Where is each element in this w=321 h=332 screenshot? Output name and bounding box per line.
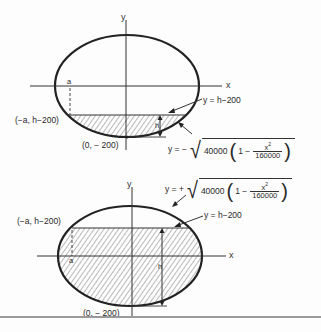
top-h-label: h [155,122,159,130]
right-paren: ) [281,181,288,201]
top-curve-equation: y = − √ 40000 ( 1 − x2 160000 ) [168,138,295,161]
left-paren: ( [230,141,237,161]
ellipse-tank-figure: y x a h (−a, h−200) (0, − 200) y = h−200… [0,0,321,332]
bottom-eq-const: 40000 [201,187,225,196]
sqrt-symbol: √ [187,178,198,201]
bottom-eq-frac-den: 160000 [250,191,279,200]
bottom-diagram [37,187,226,318]
top-x-axis-label: x [226,81,231,90]
top-eq-fraction: x2 160000 [253,142,282,160]
top-y-axis-label: y [121,13,126,22]
bottom-eq-exp: 2 [265,181,268,187]
top-h-arrow-down [158,132,163,137]
diagram-graphics [0,0,321,332]
bottom-line-equation: y = h−200 [204,211,242,220]
bottom-eq-one-minus: 1 − [235,187,247,196]
top-point-bottom-label: (0, − 200) [82,141,119,150]
top-eq-exp: 2 [268,141,271,147]
top-a-label: a [67,78,71,86]
top-eq-prefix: y = − [168,145,187,154]
bottom-h-label: h [158,263,162,271]
top-eq-one-minus: 1 − [238,147,250,156]
bottom-eq-radicand: 40000 ( 1 − x2 160000 ) [199,178,292,201]
right-paren: ) [284,141,291,161]
bottom-hatched-region [50,228,210,310]
bottom-eq-prefix: y = + [165,185,184,194]
top-line-equation: y = h−200 [203,96,241,105]
sqrt-symbol: √ [190,138,201,161]
bottom-eq-fraction: x2 160000 [250,182,279,200]
bottom-a-label: a [69,257,73,265]
top-point-left-label: (−a, h−200) [15,116,59,125]
left-paren: ( [227,181,234,201]
top-eq-frac-den: 160000 [253,151,282,160]
bottom-y-axis-label: y [127,180,132,189]
top-leader-line [170,99,202,112]
top-diagram [30,20,222,150]
bottom-rule [0,316,321,318]
bottom-x-axis-label: x [229,251,234,260]
top-eq-radicand: 40000 ( 1 − x2 160000 ) [202,138,295,161]
bottom-point-left-label: (−a, h−200) [17,217,61,226]
top-eq-const: 40000 [204,147,228,156]
bottom-curve-equation: y = + √ 40000 ( 1 − x2 160000 ) [165,178,292,201]
